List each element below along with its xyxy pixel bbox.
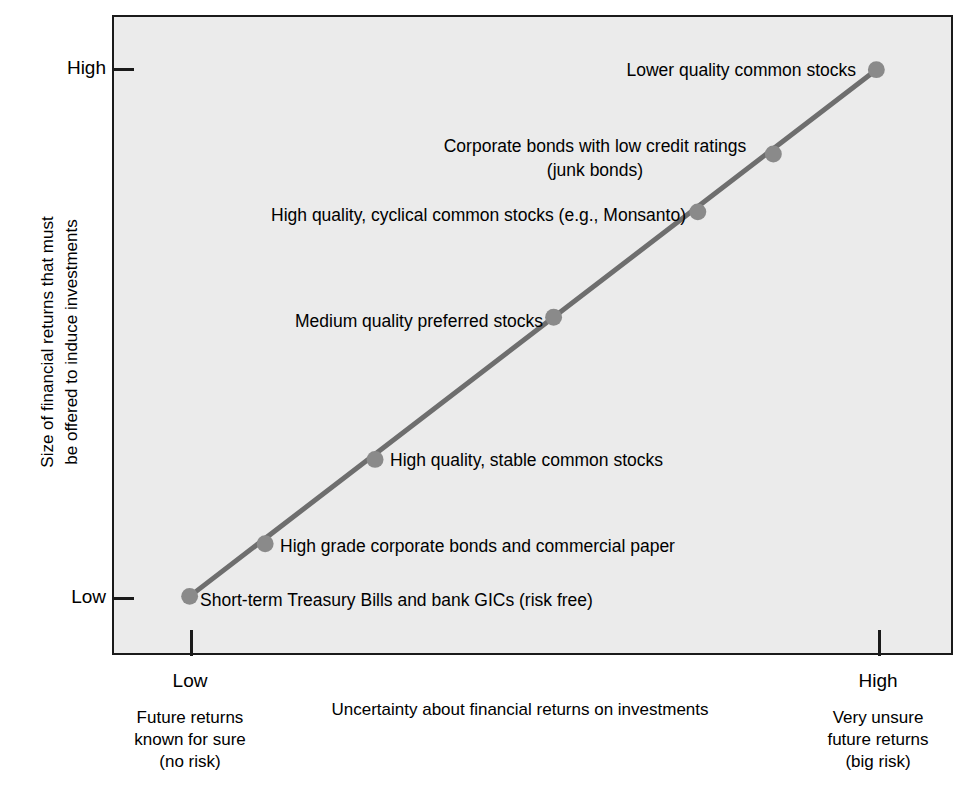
y-axis-tick-high xyxy=(112,68,134,71)
data-point-label-preferred-stocks: Medium quality preferred stocks xyxy=(213,309,543,333)
data-point-marker xyxy=(765,145,782,162)
data-point-label-cyclical-common-stocks: High quality, cyclical common stocks (e.… xyxy=(178,203,686,227)
data-point-label-treasury-bills: Short-term Treasury Bills and bank GICs … xyxy=(200,588,670,612)
x-axis-sublabel-low: Future returns known for sure (no risk) xyxy=(90,707,290,773)
data-point-marker xyxy=(545,309,562,326)
data-point-marker xyxy=(367,451,384,468)
data-point-label-junk-bonds: Corporate bonds with low credit ratings … xyxy=(430,134,760,182)
data-point-label-stable-common-stocks: High quality, stable common stocks xyxy=(390,448,790,472)
risk-return-chart: High Low Size of financial returns that … xyxy=(0,0,970,791)
plot-area xyxy=(112,15,953,655)
data-point-marker xyxy=(868,61,885,78)
data-point-marker xyxy=(257,535,274,552)
x-axis-tick-high xyxy=(878,630,881,656)
y-axis-label-high: High xyxy=(36,57,106,79)
x-axis-tick-low xyxy=(190,630,193,656)
x-axis-title: Uncertainty about financial returns on i… xyxy=(273,700,767,720)
data-point-marker xyxy=(689,203,706,220)
data-point-label-lower-quality-common-stocks: Lower quality common stocks xyxy=(348,58,856,82)
y-axis-label-low: Low xyxy=(36,586,106,608)
data-point-label-corporate-bonds: High grade corporate bonds and commercia… xyxy=(280,534,750,558)
x-axis-label-low: Low xyxy=(100,670,280,692)
x-axis-sublabel-high: Very unsure future returns (big risk) xyxy=(778,707,970,773)
data-point-marker xyxy=(181,588,198,605)
y-axis-tick-low xyxy=(112,597,134,600)
x-axis-label-high: High xyxy=(788,670,968,692)
y-axis-title: Size of financial returns that must be o… xyxy=(36,132,84,552)
